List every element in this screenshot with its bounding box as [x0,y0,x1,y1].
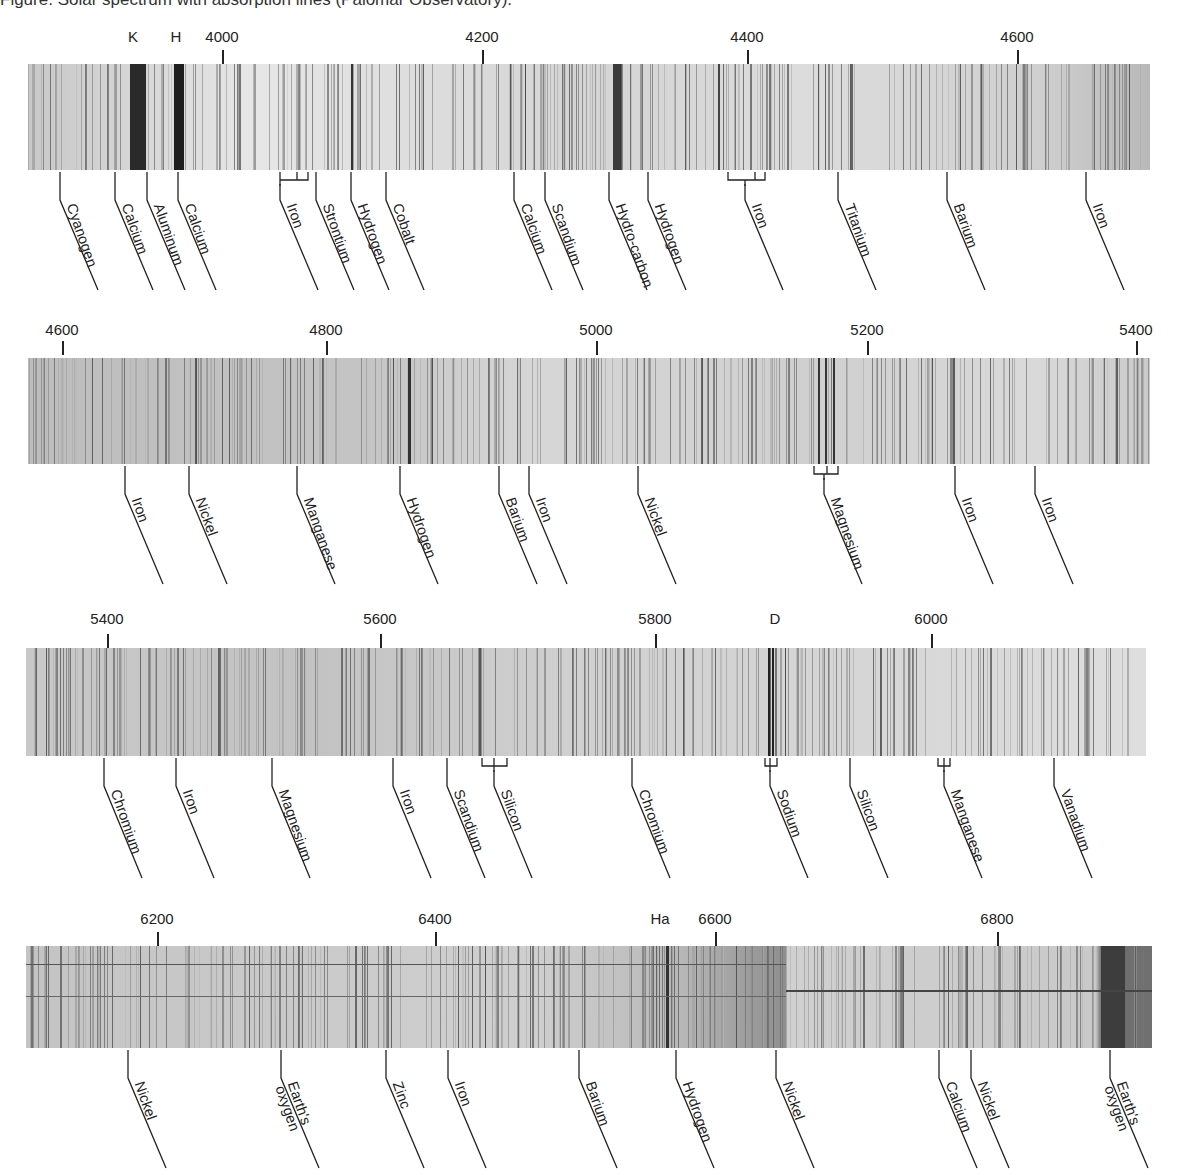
wavelength-tick-mark [435,932,437,946]
wavelength-tick-label: 5600 [363,610,396,627]
wavelength-tick-mark [931,634,933,648]
leader-line [1076,172,1156,300]
wavelength-tick-label: 6800 [980,910,1013,927]
leader-line [735,172,815,300]
line-group-bracket [479,758,510,774]
line-group-bracket [935,758,953,774]
wavelength-tick-label: 5400 [90,610,123,627]
strong-absorption-line [1101,946,1125,1048]
strong-absorption-line [613,64,621,170]
wavelength-tick-label: H [171,28,182,45]
spectrum-strip [28,64,1150,170]
wavelength-tick-label: 5400 [1119,321,1152,338]
wavelength-tick-label: 6000 [914,610,947,627]
wavelength-tick-mark [222,50,224,64]
wavelength-tick-mark [482,50,484,64]
wavelength-tick-label: Ha [650,910,669,927]
wavelength-tick-mark [747,50,749,64]
strong-absorption-line [818,358,820,464]
strong-absorption-line [833,358,835,464]
strong-absorption-line [130,64,146,170]
wavelength-tick-label: 4600 [45,321,78,338]
wavelength-tick-mark [107,634,109,648]
wavelength-tick-label: 5000 [579,321,612,338]
wavelength-tick-mark [157,932,159,946]
wavelength-tick-mark [715,932,717,946]
spectrum-strip [26,648,1146,756]
wavelength-tick-mark [380,634,382,648]
line-group-bracket [725,172,768,188]
spectrum-strip [28,358,1150,464]
wavelength-tick-label: 6600 [698,910,731,927]
strong-absorption-line [174,64,184,170]
leader-line [519,466,599,594]
strong-absorption-line [825,358,827,464]
spectrum-strip [26,946,1152,1048]
wavelength-tick-mark [596,341,598,355]
strong-absorption-line [351,64,353,170]
wavelength-tick-label: 4600 [1000,28,1033,45]
leader-line [1025,466,1105,594]
wavelength-tick-label: 6200 [140,910,173,927]
wavelength-tick-label: 4800 [309,321,342,338]
wavelength-tick-mark [867,341,869,355]
wavelength-tick-label: D [770,610,781,627]
wavelength-tick-label: 5200 [850,321,883,338]
figure-caption: Figure: Solar spectrum with absorption l… [0,0,1184,10]
wavelength-tick-mark [326,341,328,355]
strong-absorption-line [666,946,669,1048]
wavelength-tick-mark [997,932,999,946]
wavelength-tick-label: 4200 [465,28,498,45]
strong-absorption-line [772,648,774,756]
wavelength-tick-label: 5800 [638,610,671,627]
strong-absorption-line [479,648,481,756]
strong-absorption-line [408,358,411,464]
strong-absorption-line [768,648,770,756]
wavelength-tick-mark [1136,341,1138,355]
wavelength-tick-label: 6400 [418,910,451,927]
wavelength-tick-label: 4000 [205,28,238,45]
wavelength-tick-mark [1017,50,1019,64]
wavelength-tick-mark [62,341,64,355]
strong-absorption-line [718,64,720,170]
wavelength-tick-mark [655,634,657,648]
wavelength-tick-label: 4400 [730,28,763,45]
line-group-bracket [811,466,841,482]
wavelength-tick-label: K [128,28,138,45]
line-group-bracket [762,758,780,774]
leader-line [438,1050,518,1175]
leader-line [945,466,1025,594]
leader-line [166,758,246,888]
